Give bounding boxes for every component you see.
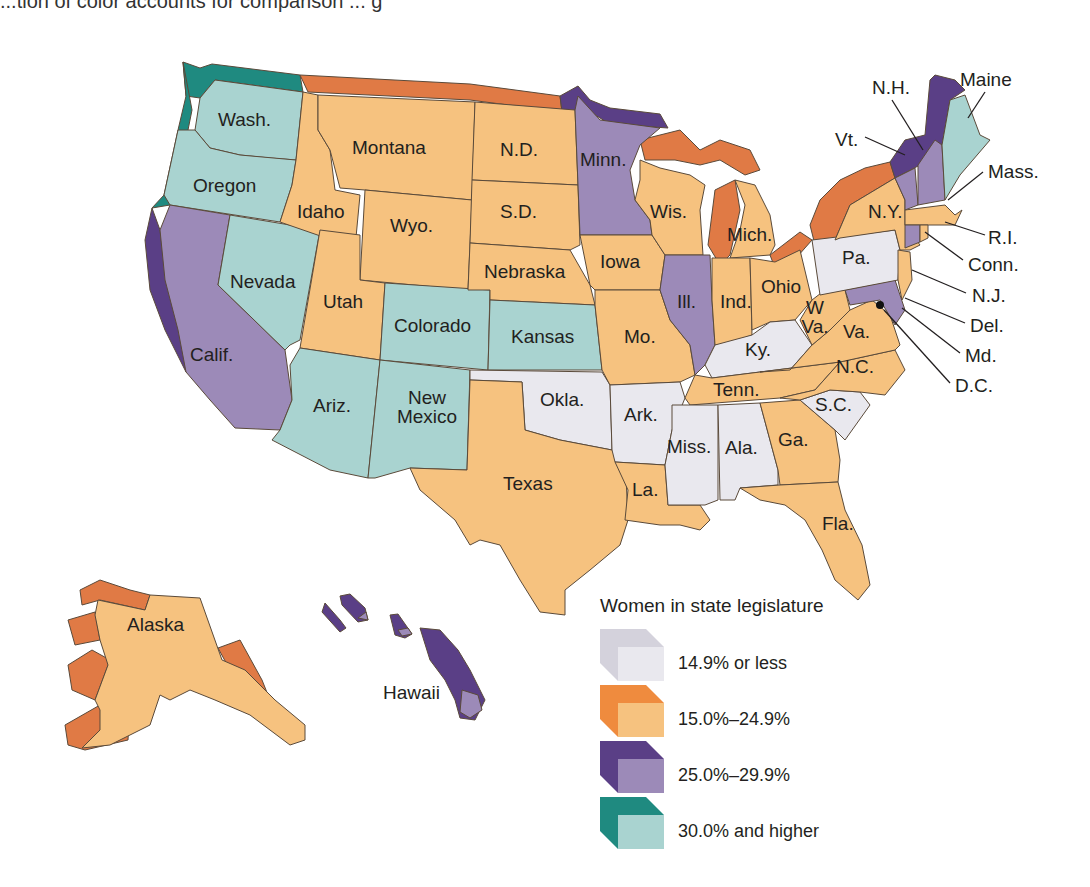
label-newmexico: NewMexico xyxy=(392,388,462,426)
label-ohio: Ohio xyxy=(761,277,801,296)
label-md: Md. xyxy=(965,346,997,365)
label-mo: Mo. xyxy=(624,327,656,346)
label-ala: Ala. xyxy=(725,438,758,457)
legend-item-low: 14.9% or less xyxy=(600,627,824,683)
label-idaho: Idaho xyxy=(297,202,345,221)
label-nevada: Nevada xyxy=(230,272,296,291)
label-kansas: Kansas xyxy=(511,327,574,346)
label-newmexico-line1: New xyxy=(408,387,446,408)
label-calif: Calif. xyxy=(190,345,233,364)
label-colorado: Colorado xyxy=(394,316,471,335)
legend-item-top: 30.0% and higher xyxy=(600,795,824,851)
label-ny: N.Y. xyxy=(868,202,903,221)
label-alaska: Alaska xyxy=(127,615,184,634)
state-wyo xyxy=(360,190,472,290)
label-wva-line1: W xyxy=(806,297,824,318)
us-map xyxy=(0,0,1090,887)
legend-label-mid: 15.0%–24.9% xyxy=(678,693,790,730)
label-nc: N.C. xyxy=(836,357,874,376)
label-ri: R.I. xyxy=(988,228,1018,247)
legend-item-high: 25.0%–29.9% xyxy=(600,739,824,795)
label-ga: Ga. xyxy=(778,430,809,449)
label-sc: S.C. xyxy=(815,395,852,414)
swatch-high-icon xyxy=(600,741,664,793)
label-ill: Ill. xyxy=(677,292,696,311)
label-fla: Fla. xyxy=(822,514,854,533)
label-wyo: Wyo. xyxy=(390,216,433,235)
state-maine xyxy=(942,95,990,200)
label-okla: Okla. xyxy=(540,390,584,409)
label-pa: Pa. xyxy=(842,248,871,267)
legend-item-mid: 15.0%–24.9% xyxy=(600,683,824,739)
label-wash: Wash. xyxy=(218,110,271,129)
legend-label-top: 30.0% and higher xyxy=(678,805,819,842)
legend-title: Women in state legislature xyxy=(600,595,824,617)
swatch-low-icon xyxy=(600,629,664,681)
label-ariz: Ariz. xyxy=(313,396,351,415)
legend: Women in state legislature 14.9% or less… xyxy=(600,595,824,851)
label-wva: WVa. xyxy=(800,298,830,336)
label-nd: N.D. xyxy=(500,140,538,159)
label-nebraska: Nebraska xyxy=(484,262,565,281)
label-ark: Ark. xyxy=(624,405,658,424)
dc-marker xyxy=(876,301,884,309)
label-ind: Ind. xyxy=(720,292,752,311)
label-va: Va. xyxy=(843,322,870,341)
label-texas: Texas xyxy=(503,474,553,493)
label-wva-line2: Va. xyxy=(801,316,828,337)
label-conn: Conn. xyxy=(968,255,1019,274)
label-newmexico-line2: Mexico xyxy=(397,406,457,427)
label-minn: Minn. xyxy=(580,150,626,169)
label-ky: Ky. xyxy=(745,340,771,359)
state-mass xyxy=(905,205,962,225)
legend-label-low: 14.9% or less xyxy=(678,637,787,674)
label-utah: Utah xyxy=(323,292,363,311)
label-tenn: Tenn. xyxy=(713,380,759,399)
swatch-mid-icon xyxy=(600,685,664,737)
label-mich: Mich. xyxy=(727,225,772,244)
legend-label-high: 25.0%–29.9% xyxy=(678,749,790,786)
label-dc: D.C. xyxy=(955,376,993,395)
label-wis: Wis. xyxy=(650,202,687,221)
state-alaska xyxy=(82,595,305,748)
state-nj xyxy=(898,250,912,300)
state-ri xyxy=(920,225,928,242)
label-maine: Maine xyxy=(960,70,1012,89)
label-nh: N.H. xyxy=(872,78,910,97)
swatch-top-icon xyxy=(600,797,664,849)
label-sd: S.D. xyxy=(500,202,537,221)
label-la: La. xyxy=(632,480,658,499)
label-oregon: Oregon xyxy=(193,176,256,195)
label-miss: Miss. xyxy=(667,437,711,456)
state-fla xyxy=(740,482,870,600)
label-montana: Montana xyxy=(352,138,426,157)
label-iowa: Iowa xyxy=(600,252,640,271)
label-nj: N.J. xyxy=(972,286,1006,305)
label-mass: Mass. xyxy=(988,162,1039,181)
label-hawaii: Hawaii xyxy=(383,683,440,702)
label-del: Del. xyxy=(970,316,1004,335)
label-vt: Vt. xyxy=(835,130,858,149)
